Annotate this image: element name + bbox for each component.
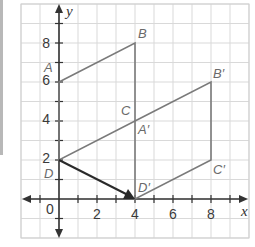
x-axis-label: x <box>240 203 248 219</box>
y-axis-arrow-up-icon <box>55 4 63 13</box>
label-C-prime: C′ <box>213 162 225 177</box>
x-tick-2: 2 <box>93 206 101 222</box>
label-D: D <box>44 166 53 181</box>
label-D-prime: D′ <box>138 180 150 195</box>
label-B: B <box>138 26 147 41</box>
label-B-prime: B′ <box>213 66 225 81</box>
label-C: C <box>121 103 131 118</box>
y-tick-8: 8 <box>42 35 50 51</box>
x-axis-arrow-left-icon <box>22 195 31 203</box>
label-A: A <box>43 60 53 75</box>
y-tick-4: 4 <box>42 111 50 127</box>
y-axis-arrow-down-icon <box>55 229 63 238</box>
y-tick-2: 2 <box>42 150 50 166</box>
x-tick-4: 4 <box>131 206 139 222</box>
translation-vector <box>59 160 128 195</box>
label-A-prime: A′ <box>137 122 150 137</box>
x-tick-6: 6 <box>169 206 177 222</box>
origin-label: 0 <box>46 201 54 217</box>
x-axis-arrow-right-icon <box>239 195 248 203</box>
x-tick-8: 8 <box>207 206 215 222</box>
coordinate-plane: 2 4 6 8 0 2 4 6 8 x y A B C D A′ B′ C′ D… <box>0 0 255 247</box>
y-axis-label: y <box>64 3 73 19</box>
